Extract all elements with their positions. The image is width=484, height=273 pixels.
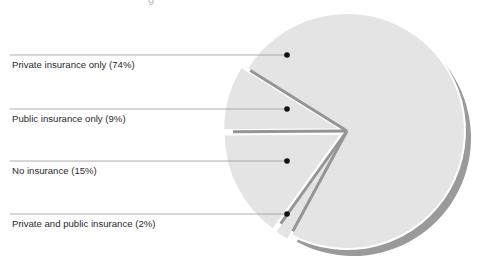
pie-slices [223,13,465,249]
leader-dot [284,52,290,58]
legend-label-no-insurance: No insurance (15%) [12,166,97,176]
pie-chart [0,0,484,273]
leader-dot [284,211,290,217]
slice-edge [233,131,347,132]
leader-dot [284,158,290,164]
legend-label-private-and-public: Private and public insurance (2%) [12,219,155,229]
legend-label-public-only: Public insurance only (9%) [12,114,126,124]
leader-dot [284,106,290,112]
legend-label-private-only: Private insurance only (74%) [12,60,135,70]
